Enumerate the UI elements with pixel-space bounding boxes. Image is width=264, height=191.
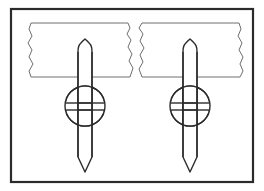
left-hub-band <box>78 86 92 126</box>
diagram-canvas <box>0 0 264 191</box>
right-hub-band <box>183 86 197 126</box>
figure-root <box>0 0 264 191</box>
